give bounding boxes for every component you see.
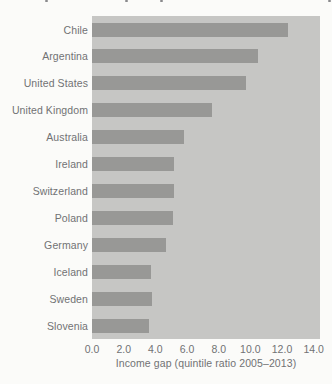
category-label: Chile [0, 23, 88, 37]
cropped-text-artifact [160, 0, 163, 2]
x-tick-label: 6.0 [170, 343, 204, 355]
category-label: Iceland [0, 265, 88, 279]
category-label: United Kingdom [0, 103, 88, 117]
plot-area [92, 16, 320, 339]
cropped-text-artifact [328, 0, 331, 2]
x-tick-label: 8.0 [202, 343, 236, 355]
bar [92, 292, 152, 306]
x-tick-label: 14.0 [297, 343, 331, 355]
category-label: Switzerland [0, 184, 88, 198]
category-label: Slovenia [0, 319, 88, 333]
x-tick-label: 0.0 [75, 343, 109, 355]
x-tick-label: 2.0 [107, 343, 141, 355]
bar [92, 76, 246, 90]
x-tick-label: 4.0 [138, 343, 172, 355]
figure: ChileArgentinaUnited StatesUnited Kingdo… [0, 0, 332, 384]
x-tick-label: 10.0 [233, 343, 267, 355]
bar [92, 211, 173, 225]
bar [92, 23, 288, 37]
category-label: Poland [0, 211, 88, 225]
bar [92, 49, 258, 63]
bar [92, 130, 184, 144]
category-label: Germany [0, 238, 88, 252]
x-axis-title: Income gap (quintile ratio 2005–2013) [82, 357, 330, 369]
bar [92, 265, 151, 279]
x-tick-label: 12.0 [265, 343, 299, 355]
bar [92, 184, 174, 198]
cropped-text-artifact [45, 0, 48, 2]
bar [92, 319, 149, 333]
cropped-text-artifact [125, 0, 128, 2]
category-label: Argentina [0, 49, 88, 63]
category-label: Sweden [0, 292, 88, 306]
bar [92, 103, 212, 117]
bar [92, 238, 166, 252]
category-label: Ireland [0, 157, 88, 171]
bar [92, 157, 174, 171]
category-label: Australia [0, 130, 88, 144]
category-label: United States [0, 76, 88, 90]
